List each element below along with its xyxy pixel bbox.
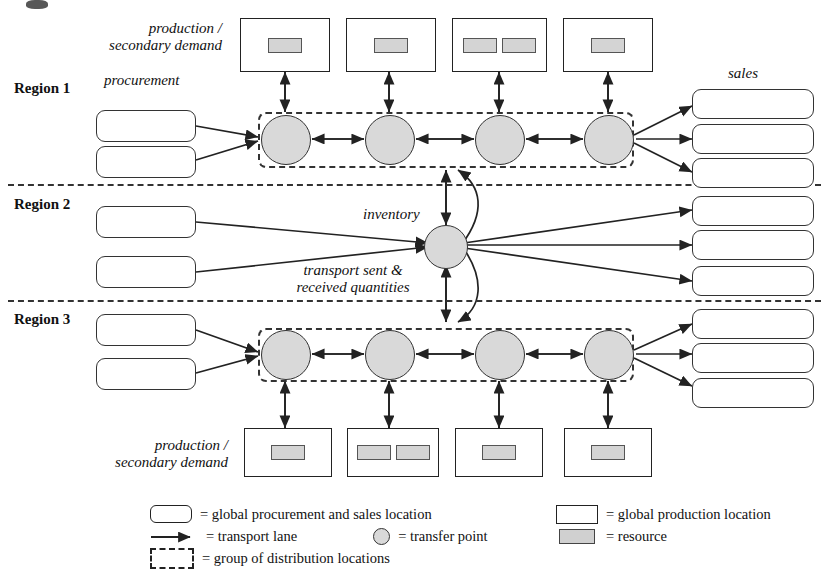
sales-label: sales: [728, 65, 758, 82]
inventory-node-r2[interactable]: [424, 225, 468, 269]
rounded-box-icon: [150, 505, 192, 523]
resource-bar: [463, 38, 497, 53]
resource-bar: [374, 38, 408, 53]
transfer-point-r3-4[interactable]: [584, 330, 634, 380]
resource-bar: [396, 445, 430, 460]
dashed-box-icon: [150, 548, 194, 569]
transfer-point-r3-1[interactable]: [261, 330, 311, 380]
sales-box-r2-2[interactable]: [692, 230, 814, 260]
production-top-label: production / secondary demand: [62, 20, 222, 54]
production-box-r3-3[interactable]: [455, 428, 543, 477]
region-2-label: Region 2: [14, 196, 70, 213]
transfer-point-r3-2[interactable]: [365, 330, 415, 380]
arrow-icon: [150, 530, 198, 542]
production-box-r1-3[interactable]: [452, 18, 547, 72]
production-box-r3-1[interactable]: [244, 428, 332, 477]
production-box-r3-4[interactable]: [564, 428, 652, 477]
transfer-point-r1-3[interactable]: [475, 115, 525, 165]
resource-bar: [271, 445, 305, 460]
resource-bar: [591, 38, 625, 53]
sales-box-r2-1[interactable]: [692, 196, 814, 226]
region-3-label: Region 3: [14, 311, 70, 328]
legend-item-global-production: = global production location: [556, 503, 771, 525]
distribution-group-r3: [258, 328, 634, 382]
legend-item-transport-lane: = transport lane = transfer point: [150, 525, 488, 547]
procurement-box-r3-2[interactable]: [96, 358, 196, 390]
legend-item-resource: = resource: [556, 525, 771, 547]
transfer-point-r1-1[interactable]: [261, 115, 311, 165]
transfer-point-r1-4[interactable]: [584, 115, 634, 165]
procurement-label: procurement: [104, 72, 180, 89]
production-box-r1-1[interactable]: [240, 18, 330, 72]
legend-label: = group of distribution locations: [202, 550, 390, 567]
sales-box-r2-3[interactable]: [692, 266, 814, 296]
production-box-r3-2[interactable]: [347, 428, 439, 477]
resource-bar: [591, 445, 625, 460]
circle-icon: [373, 528, 390, 545]
inventory-label: inventory: [363, 206, 420, 223]
sales-box-r3-1[interactable]: [692, 309, 814, 339]
production-box-r1-2[interactable]: [346, 18, 436, 72]
resource-bar: [357, 445, 391, 460]
square-box-icon: [556, 505, 598, 524]
legend-label: = transfer point: [398, 528, 488, 545]
sales-box-r1-2[interactable]: [692, 124, 814, 154]
resource-bar-icon: [559, 529, 595, 544]
legend-item-global-procurement: = global procurement and sales location: [150, 503, 488, 525]
procurement-box-r1-1[interactable]: [96, 110, 196, 142]
sales-box-r3-2[interactable]: [692, 343, 814, 373]
procurement-box-r3-1[interactable]: [96, 314, 196, 346]
transport-label: transport sent & received quantities: [272, 262, 434, 296]
resource-bar: [268, 38, 302, 53]
resource-bar: [482, 445, 516, 460]
sales-box-r1-3[interactable]: [692, 158, 814, 188]
procurement-box-r2-2[interactable]: [96, 256, 196, 288]
transfer-point-r3-3[interactable]: [475, 330, 525, 380]
distribution-group-r1: [258, 112, 634, 168]
legend-label: = transport lane: [206, 528, 297, 545]
sales-box-r1-1[interactable]: [692, 89, 814, 119]
legend-right: = global production location = resource: [556, 503, 771, 547]
production-box-r1-4[interactable]: [563, 18, 653, 72]
transfer-point-r1-2[interactable]: [365, 115, 415, 165]
procurement-box-r1-2[interactable]: [96, 146, 196, 178]
legend: = global procurement and sales location …: [150, 503, 488, 569]
legend-label: = resource: [606, 528, 667, 545]
resource-bar: [502, 38, 536, 53]
legend-label: = global production location: [606, 506, 771, 523]
production-bottom-label: production / secondary demand: [68, 437, 228, 471]
diagram-canvas: Region 1 Region 2 Region 3 production / …: [0, 0, 829, 575]
region-1-label: Region 1: [14, 80, 70, 97]
procurement-box-r2-1[interactable]: [96, 206, 196, 238]
region-divider-2: [8, 300, 821, 302]
sales-box-r3-3[interactable]: [692, 378, 814, 408]
legend-item-distribution-group: = group of distribution locations: [150, 547, 488, 569]
legend-label: = global procurement and sales location: [200, 506, 432, 523]
